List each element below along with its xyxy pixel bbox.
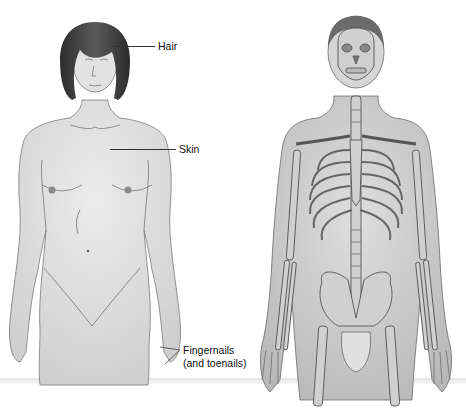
label-fingernails: Fingernails xyxy=(183,344,234,356)
label-hair: Hair xyxy=(158,40,177,52)
label-fingernails-sub: (and toenails) xyxy=(183,357,247,369)
hair-leader-line xyxy=(113,46,155,47)
female-body xyxy=(9,32,180,385)
nipple-right xyxy=(125,187,132,194)
navel xyxy=(87,250,89,252)
skin-leader-line xyxy=(110,149,176,150)
anatomy-figure: Hair Skin Fingernails (and toenails) xyxy=(0,0,466,414)
label-skin: Skin xyxy=(179,143,199,155)
nipple-left xyxy=(49,187,56,194)
